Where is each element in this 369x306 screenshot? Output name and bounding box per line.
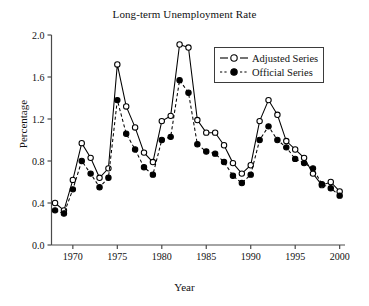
legend-label-adjusted: Adjusted Series	[249, 53, 318, 64]
data-point-marker	[186, 90, 191, 95]
data-point-marker	[168, 113, 173, 118]
x-tick-label: 1970	[63, 251, 83, 262]
legend-item-official: Official Series	[219, 65, 318, 79]
y-tick-label: 0.8	[32, 156, 45, 167]
data-point-marker	[52, 208, 57, 213]
data-point-marker	[275, 137, 280, 142]
data-point-marker	[328, 186, 333, 191]
data-point-marker	[239, 171, 244, 176]
data-point-marker	[88, 171, 93, 176]
data-point-marker	[230, 160, 235, 165]
x-tick-label: 1980	[152, 251, 172, 262]
data-point-marker	[141, 165, 146, 170]
data-point-marker	[52, 200, 57, 205]
data-point-marker	[124, 104, 129, 109]
series-official-series	[52, 77, 342, 216]
data-point-marker	[328, 179, 333, 184]
data-point-marker	[97, 175, 102, 180]
x-tick-label: 1975	[107, 251, 127, 262]
legend-label-official: Official Series	[249, 67, 313, 78]
legend-symbol-filled-circle	[219, 66, 249, 78]
data-point-marker	[257, 118, 262, 123]
data-point-marker	[132, 147, 137, 152]
data-point-marker	[159, 118, 164, 123]
data-point-marker	[292, 156, 297, 161]
data-point-marker	[132, 125, 137, 130]
x-tick-group: 1970197519801985199019952000	[63, 245, 350, 262]
data-point-marker	[177, 42, 182, 47]
data-point-marker	[195, 142, 200, 147]
x-tick-label: 1995	[285, 251, 305, 262]
data-point-marker	[239, 180, 244, 185]
data-point-marker	[257, 137, 262, 142]
y-tick-label: 0.4	[32, 198, 45, 209]
y-tick-label: 0.0	[32, 240, 45, 251]
data-point-marker	[266, 97, 271, 102]
x-tick-label: 1990	[241, 251, 261, 262]
data-point-marker	[97, 185, 102, 190]
data-point-marker	[195, 117, 200, 122]
data-point-marker	[150, 172, 155, 177]
data-point-marker	[106, 175, 111, 180]
data-point-marker	[177, 77, 182, 82]
y-tick-label: 2.0	[32, 30, 45, 41]
data-point-marker	[266, 124, 271, 129]
data-point-marker	[115, 62, 120, 67]
legend-item-adjusted: Adjusted Series	[219, 51, 318, 65]
legend-symbol-open-circle	[219, 52, 249, 64]
data-point-marker	[248, 172, 253, 177]
data-point-marker	[337, 193, 342, 198]
data-point-marker	[115, 97, 120, 102]
plot-area: 0.00.40.81.21.62.0 197019751980198519901…	[0, 0, 369, 306]
x-tick-label: 1985	[196, 251, 216, 262]
data-point-marker	[168, 134, 173, 139]
data-point-marker	[150, 159, 155, 164]
data-point-marker	[301, 160, 306, 165]
data-point-marker	[70, 177, 75, 182]
data-point-marker	[319, 181, 324, 186]
data-point-marker	[106, 166, 111, 171]
data-point-marker	[186, 45, 191, 50]
data-point-marker	[141, 150, 146, 155]
x-tick-label: 2000	[330, 251, 350, 262]
data-point-marker	[204, 149, 209, 154]
data-point-marker	[159, 137, 164, 142]
data-point-marker	[310, 166, 315, 171]
chart-figure: Long-term Unemployment Rate Percentage Y…	[0, 0, 369, 306]
data-point-marker	[212, 130, 217, 135]
data-point-marker	[79, 140, 84, 145]
data-point-marker	[221, 159, 226, 164]
data-point-marker	[230, 173, 235, 178]
data-point-marker	[212, 151, 217, 156]
data-point-marker	[301, 155, 306, 160]
data-point-marker	[204, 130, 209, 135]
y-tick-group: 0.00.40.81.21.62.0	[32, 30, 52, 251]
data-point-marker	[79, 158, 84, 163]
data-point-marker	[284, 138, 289, 143]
data-point-marker	[70, 187, 75, 192]
data-point-marker	[88, 155, 93, 160]
chart-legend: Adjusted Series Official Series	[214, 47, 324, 83]
data-point-marker	[292, 147, 297, 152]
data-point-marker	[124, 131, 129, 136]
data-point-marker	[284, 145, 289, 150]
data-point-marker	[61, 211, 66, 216]
y-tick-label: 1.6	[32, 72, 45, 83]
data-point-marker	[275, 112, 280, 117]
y-tick-label: 1.2	[32, 114, 45, 125]
data-point-marker	[221, 143, 226, 148]
